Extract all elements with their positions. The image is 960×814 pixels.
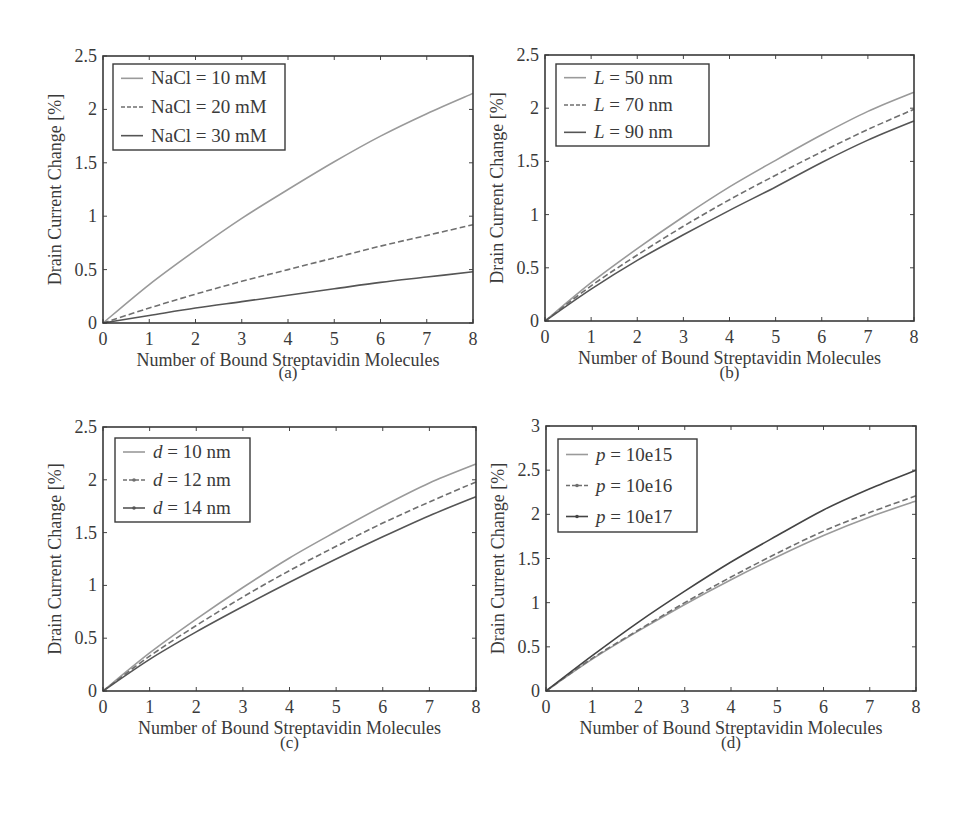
x-tick-label: 8 [912,697,921,717]
y-tick-label: 0 [531,681,540,701]
chart-panel-a: 01234567800.511.522.5Number of Bound Str… [45,46,478,382]
y-tick-label: 1 [88,206,97,226]
y-tick-label: 2.5 [75,417,98,437]
y-tick-label: 1.5 [75,153,98,173]
series-line [545,121,914,321]
legend-label: NaCl = 30 mM [151,125,267,146]
x-tick-label: 0 [542,697,551,717]
x-tick-label: 1 [145,697,154,717]
x-tick-label: 2 [634,697,643,717]
legend-label: p = 10e16 [594,475,672,496]
legend-label: d = 10 nm [153,441,231,462]
x-tick-label: 1 [587,327,596,347]
legend: p = 10e15p = 10e16p = 10e17 [558,439,697,532]
panel-caption: (c) [280,733,299,752]
chart-panel-b: 01234567800.511.522.5Number of Bound Str… [487,45,919,382]
y-tick-label: 2 [531,504,540,524]
y-tick-label: 0.5 [517,258,540,278]
y-tick-label: 1.5 [75,523,98,543]
x-tick-label: 6 [817,327,826,347]
x-tick-label: 6 [378,697,387,717]
y-tick-label: 1 [88,575,97,595]
x-tick-label: 3 [680,697,689,717]
x-tick-label: 0 [99,329,108,349]
x-tick-label: 7 [422,329,431,349]
chart-panel-c: 01234567800.511.522.5Number of Bound Str… [45,417,481,752]
legend-label: L = 90 nm [593,121,673,142]
x-tick-label: 8 [472,697,481,717]
x-tick-label: 4 [727,697,736,717]
y-axis-label: Drain Current Change [%] [45,463,65,654]
series-line [103,225,473,323]
figure: 01234567800.511.522.5Number of Bound Str… [0,0,960,814]
y-tick-label: 2.5 [518,460,541,480]
y-axis-label: Drain Current Change [%] [488,463,508,654]
x-tick-label: 5 [332,697,341,717]
legend-label: L = 50 nm [593,67,673,88]
legend-label: d = 12 nm [153,469,231,490]
x-tick-label: 5 [773,697,782,717]
x-tick-label: 0 [541,327,550,347]
y-tick-label: 0 [88,313,97,333]
y-tick-label: 0 [88,681,97,701]
legend: d = 10 nmd = 12 nmd = 14 nm [115,438,250,522]
x-tick-label: 3 [238,697,247,717]
y-tick-label: 3 [531,416,540,436]
legend-label: L = 70 nm [593,94,673,115]
x-tick-label: 7 [425,697,434,717]
legend-label: NaCl = 10 mM [151,67,267,88]
x-tick-label: 1 [145,329,154,349]
x-tick-label: 1 [588,697,597,717]
y-tick-label: 2.5 [517,45,540,65]
y-axis-label: Drain Current Change [%] [487,92,507,283]
panel-caption: (d) [721,733,741,752]
x-tick-label: 7 [865,697,874,717]
y-tick-label: 2 [88,99,97,119]
y-tick-label: 1.5 [518,549,541,569]
legend: L = 50 nmL = 70 nmL = 90 nm [556,64,709,146]
y-tick-label: 0.5 [75,628,98,648]
x-tick-label: 0 [99,697,108,717]
panel-caption: (a) [279,363,298,382]
y-tick-label: 0.5 [75,260,98,280]
x-tick-label: 8 [469,329,478,349]
x-tick-label: 4 [725,327,734,347]
x-tick-label: 2 [633,327,642,347]
x-tick-label: 5 [771,327,780,347]
y-tick-label: 1 [530,205,539,225]
y-tick-label: 1 [531,593,540,613]
legend-label: d = 14 nm [153,497,231,518]
series-line [103,272,473,323]
x-tick-label: 2 [191,329,200,349]
x-tick-label: 7 [863,327,872,347]
chart-panel-d: 01234567800.511.522.53Number of Bound St… [488,416,921,752]
y-tick-label: 2 [530,98,539,118]
panel-caption: (b) [720,363,740,382]
x-tick-label: 8 [910,327,919,347]
legend-label: p = 10e15 [594,444,672,465]
x-tick-label: 5 [330,329,339,349]
x-tick-label: 6 [819,697,828,717]
y-axis-label: Drain Current Change [%] [45,94,65,285]
y-tick-label: 1.5 [517,151,540,171]
series-line [103,497,476,691]
x-tick-label: 6 [376,329,385,349]
y-tick-label: 2.5 [75,46,98,66]
y-tick-label: 0 [530,311,539,331]
x-tick-label: 3 [237,329,246,349]
y-tick-label: 2 [88,470,97,490]
y-tick-label: 0.5 [518,637,541,657]
legend-label: p = 10e17 [594,506,672,527]
figure-canvas: 01234567800.511.522.5Number of Bound Str… [0,0,960,814]
x-tick-label: 2 [192,697,201,717]
x-tick-label: 4 [285,697,294,717]
x-tick-label: 4 [284,329,293,349]
x-tick-label: 3 [679,327,688,347]
legend: NaCl = 10 mMNaCl = 20 mMNaCl = 30 mM [113,64,285,150]
legend-label: NaCl = 20 mM [151,96,267,117]
